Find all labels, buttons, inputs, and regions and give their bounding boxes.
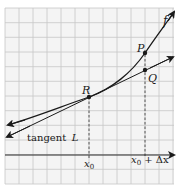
point-label-p: P: [136, 42, 145, 55]
point-label-r: R: [81, 84, 90, 97]
point-label-q: Q: [148, 72, 157, 85]
tangent-diagram: f R P Q tangent L x0 x0 + Δx: [0, 0, 177, 193]
tangent-label: tangent L: [27, 132, 79, 143]
point-q: [143, 68, 147, 72]
